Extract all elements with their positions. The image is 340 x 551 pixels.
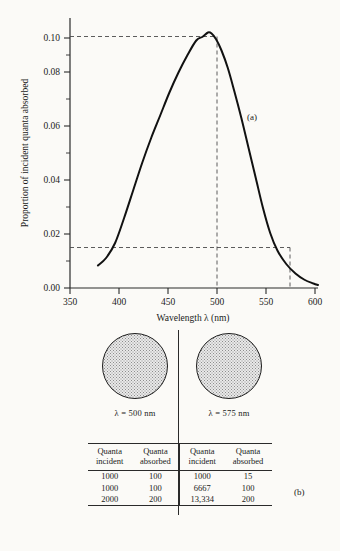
x-axis-tick-labels: 350 400 450 500 550 600 [63,297,323,307]
figure-page: 0.00 0.02 0.04 0.06 0.08 0.10 350 400 [0,0,340,551]
light-beam-circle-575 [196,333,262,399]
cell-absorbed-500: 100 [131,470,180,482]
x-axis-title: Wavelength λ (nm) [157,313,230,324]
beam-label-500: λ = 500 nm [92,408,178,418]
x-tick-label: 600 [308,297,323,307]
table-header-row: Quanta incident Quanta absorbed Quanta i… [88,444,272,471]
table-row: 1000 100 6667 100 [88,482,272,494]
quanta-comparison-panel: λ = 500 nm λ = 575 nm Quanta incident Qu… [0,325,340,551]
cell-absorbed-575: 15 [224,470,272,482]
header-line2: absorbed [133,457,177,467]
cell-absorbed-575: 100 [224,482,272,494]
y-tick-label: 0.04 [43,175,60,185]
panel-b-letter: (b) [294,487,305,497]
light-beam-circle-500 [102,333,168,399]
header-quanta-absorbed-575: Quanta absorbed [224,444,272,471]
y-tick-label: 0.08 [43,67,60,77]
chart-svg: 0.00 0.02 0.04 0.06 0.08 0.10 350 400 [0,0,340,325]
x-tick-label: 550 [259,297,274,307]
cell-absorbed-500: 100 [131,482,180,494]
cell-absorbed-575: 200 [224,494,272,506]
x-tick-label: 450 [161,297,176,307]
x-tick-label: 500 [210,297,225,307]
y-tick-label: 0.02 [43,229,60,239]
y-axis-major-ticks [64,38,70,288]
cell-absorbed-500: 200 [131,494,180,506]
header-quanta-absorbed-500: Quanta absorbed [131,444,180,471]
header-line2: incident [90,457,129,467]
y-tick-label: 0.06 [43,121,60,131]
cell-incident-500: 1000 [88,470,131,482]
absorption-curve [98,32,318,285]
cell-incident-575: 6667 [180,482,224,494]
header-line2: incident [182,457,222,467]
x-tick-label: 350 [63,297,78,307]
y-axis-tick-labels: 0.00 0.02 0.04 0.06 0.08 0.10 [43,33,60,293]
absorption-spectrum-chart: 0.00 0.02 0.04 0.06 0.08 0.10 350 400 [0,0,340,325]
cell-incident-575: 1000 [180,470,224,482]
quanta-table: Quanta incident Quanta absorbed Quanta i… [88,443,272,506]
header-quanta-incident-500: Quanta incident [88,444,131,471]
cell-incident-500: 1000 [88,482,131,494]
header-line2: absorbed [226,457,270,467]
cell-incident-575: 13,334 [180,494,224,506]
table-row: 1000 100 1000 15 [88,470,272,482]
x-axis-ticks [70,288,315,294]
y-tick-label: 0.10 [43,33,60,43]
cell-incident-500: 2000 [88,494,131,506]
x-tick-label: 400 [112,297,127,307]
reading-guide-lines [70,37,290,289]
beam-group-right: λ = 575 nm [186,333,272,418]
header-quanta-incident-575: Quanta incident [180,444,224,471]
panel-a-letter: (a) [247,112,257,122]
y-tick-label: 0.00 [43,283,60,293]
beam-label-575: λ = 575 nm [186,408,272,418]
beam-group-left: λ = 500 nm [92,333,178,418]
y-axis-title: Proportion of incident quanta absorbed [20,79,30,228]
table-row: 2000 200 13,334 200 [88,494,272,506]
